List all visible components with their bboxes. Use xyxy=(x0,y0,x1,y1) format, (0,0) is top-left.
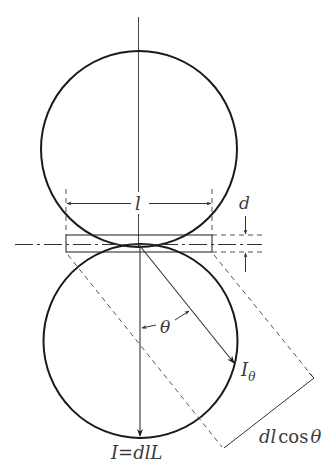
label-d: d xyxy=(239,193,250,213)
lambert-intensity-diagram: d l θ Iθ I=dlL dlcosθ xyxy=(0,0,334,466)
label-theta: θ xyxy=(160,317,170,337)
label-l: l xyxy=(135,193,141,214)
theta-arrow-right xyxy=(175,311,189,320)
label-I-normal: I=dlL xyxy=(110,442,162,463)
oblique-intensity-arrow xyxy=(140,246,234,363)
label-projected-length: dlcosθ xyxy=(259,426,321,447)
projection-line-left xyxy=(68,255,222,447)
theta-arrow-left xyxy=(142,325,156,328)
label-I-theta: Iθ xyxy=(240,359,256,384)
projection-line-right xyxy=(214,255,313,377)
